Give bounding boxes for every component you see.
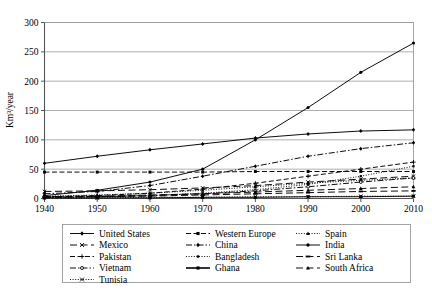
legend-label: Spain <box>325 229 347 239</box>
legend-label: Ghana <box>215 263 241 273</box>
series-marker <box>412 177 415 180</box>
series-line <box>45 43 414 196</box>
series-marker <box>43 161 46 165</box>
y-tick-label-150: 150 <box>24 106 39 116</box>
legend-label: United States <box>99 229 150 239</box>
series-marker <box>412 141 415 145</box>
legend-marker <box>197 255 199 257</box>
series-marker <box>307 185 310 188</box>
series-marker <box>96 171 99 174</box>
series-marker <box>306 154 309 158</box>
series-india <box>43 41 415 197</box>
legend-label: India <box>325 240 345 250</box>
series-line <box>45 130 414 163</box>
series-marker <box>254 138 257 141</box>
series-marker <box>254 164 257 168</box>
series-marker <box>359 147 362 151</box>
legend-marker <box>196 266 199 269</box>
x-tick-label-1960: 1960 <box>140 204 159 214</box>
series-marker <box>412 128 415 132</box>
series-marker <box>43 171 46 174</box>
series-marker <box>359 181 362 184</box>
chart-figure: 050100150200250300 194019501960197019801… <box>0 0 432 291</box>
legend-label: Tunisia <box>99 275 128 285</box>
y-axis-title: Km³/year <box>5 91 15 128</box>
series-marker <box>254 170 257 173</box>
y-tick-labels: 050100150200250300 <box>24 18 39 204</box>
legend-label: Pakistan <box>99 252 131 262</box>
chart-legend: United StatesWestern EuropeSpainMexicoCh… <box>63 225 411 285</box>
y-tick-label-200: 200 <box>24 77 39 87</box>
y-tick-label-250: 250 <box>24 47 39 57</box>
series-marker <box>307 106 310 109</box>
y-tick-label-50: 50 <box>29 165 39 175</box>
legend-label: China <box>215 240 238 250</box>
series-marker <box>96 189 99 192</box>
legend-label: Mexico <box>99 240 128 250</box>
legend-label: Bangladesh <box>215 252 260 262</box>
series-marker <box>306 174 310 178</box>
series-marker <box>412 170 415 173</box>
legend-label: Vietnam <box>99 263 132 273</box>
series-marker <box>201 171 204 174</box>
series-marker <box>306 132 309 136</box>
series-line <box>45 176 414 191</box>
series-marker <box>360 175 362 177</box>
x-tick-label-2000: 2000 <box>351 204 370 214</box>
series-marker <box>359 167 363 171</box>
data-series <box>42 41 415 199</box>
series-united-states <box>43 128 415 165</box>
y-tick-label-0: 0 <box>34 194 39 204</box>
axes <box>41 23 414 203</box>
series-china <box>43 141 415 196</box>
series-marker <box>96 154 99 158</box>
legend-marker <box>196 232 199 235</box>
series-marker <box>148 181 151 184</box>
legend-label: Western Europe <box>215 229 276 239</box>
x-tick-label-1950: 1950 <box>88 204 107 214</box>
x-tick-label-2010: 2010 <box>404 204 423 214</box>
series-marker <box>201 168 204 171</box>
series-marker <box>411 160 415 164</box>
series-marker <box>412 41 415 44</box>
x-tick-labels: 19401950196019701980199020002010 <box>35 204 423 214</box>
legend-marker <box>306 243 309 246</box>
series-marker <box>148 171 151 174</box>
series-marker <box>201 174 204 178</box>
x-tick-label-1980: 1980 <box>246 204 265 214</box>
x-tick-label-1970: 1970 <box>193 204 212 214</box>
legend-marker <box>80 266 83 269</box>
y-tick-label-100: 100 <box>24 135 39 145</box>
x-tick-label-1940: 1940 <box>35 204 54 214</box>
line-chart: 050100150200250300 194019501960197019801… <box>0 0 432 291</box>
x-tick-label-1990: 1990 <box>299 204 318 214</box>
series-western-europe <box>43 170 415 173</box>
legend-label: South Africa <box>325 263 374 273</box>
series-marker <box>359 71 362 74</box>
series-marker <box>148 148 151 152</box>
series-marker <box>412 165 414 167</box>
y-axis-label: Km³/year <box>5 91 15 128</box>
series-marker <box>201 142 204 146</box>
y-tick-label-300: 300 <box>24 18 39 28</box>
gridlines <box>45 23 414 170</box>
series-marker <box>307 170 310 173</box>
series-marker <box>359 129 362 133</box>
legend-label: Sri Lanka <box>325 252 363 262</box>
series-marker <box>148 184 151 188</box>
